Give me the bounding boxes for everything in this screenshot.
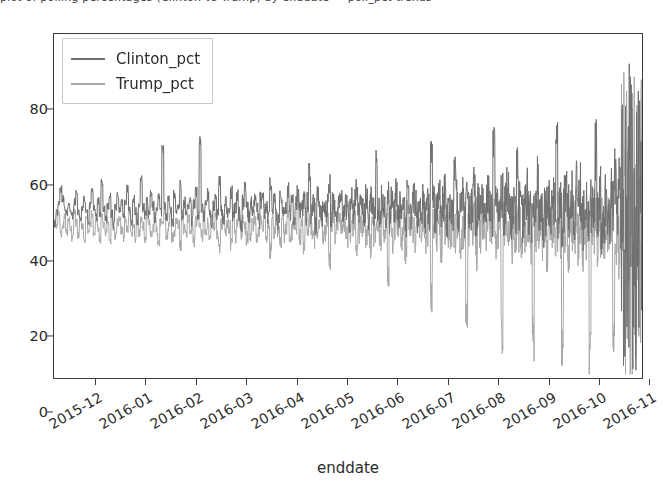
legend-entry-clinton[interactable]: Clinton_pct — [71, 46, 200, 71]
y-tick-label-40: 40 — [6, 254, 48, 269]
x-axis-label-group: 2015-122016-012016-022016-032016-042016-… — [0, 379, 663, 459]
y-tick-label-20: 20 — [6, 329, 48, 344]
matplotlib-figure: plot of polling percentages (Clinton vs … — [0, 0, 663, 496]
y-tick-label-60: 60 — [6, 178, 48, 193]
legend-swatch-clinton-icon — [71, 58, 105, 60]
y-axis-tick-group: 0 20 40 60 80 — [0, 33, 48, 379]
legend-entry-trump[interactable]: Trump_pct — [71, 71, 200, 96]
x-axis-title: enddate — [53, 459, 643, 477]
chart-legend[interactable]: Clinton_pct Trump_pct — [62, 38, 213, 104]
legend-label-clinton: Clinton_pct — [116, 50, 200, 68]
legend-label-trump: Trump_pct — [116, 75, 194, 93]
y-tick-label-80: 80 — [6, 102, 48, 117]
clipped-top-text: plot of polling percentages (Clinton vs … — [0, 0, 663, 5]
legend-swatch-trump-icon — [71, 83, 105, 85]
